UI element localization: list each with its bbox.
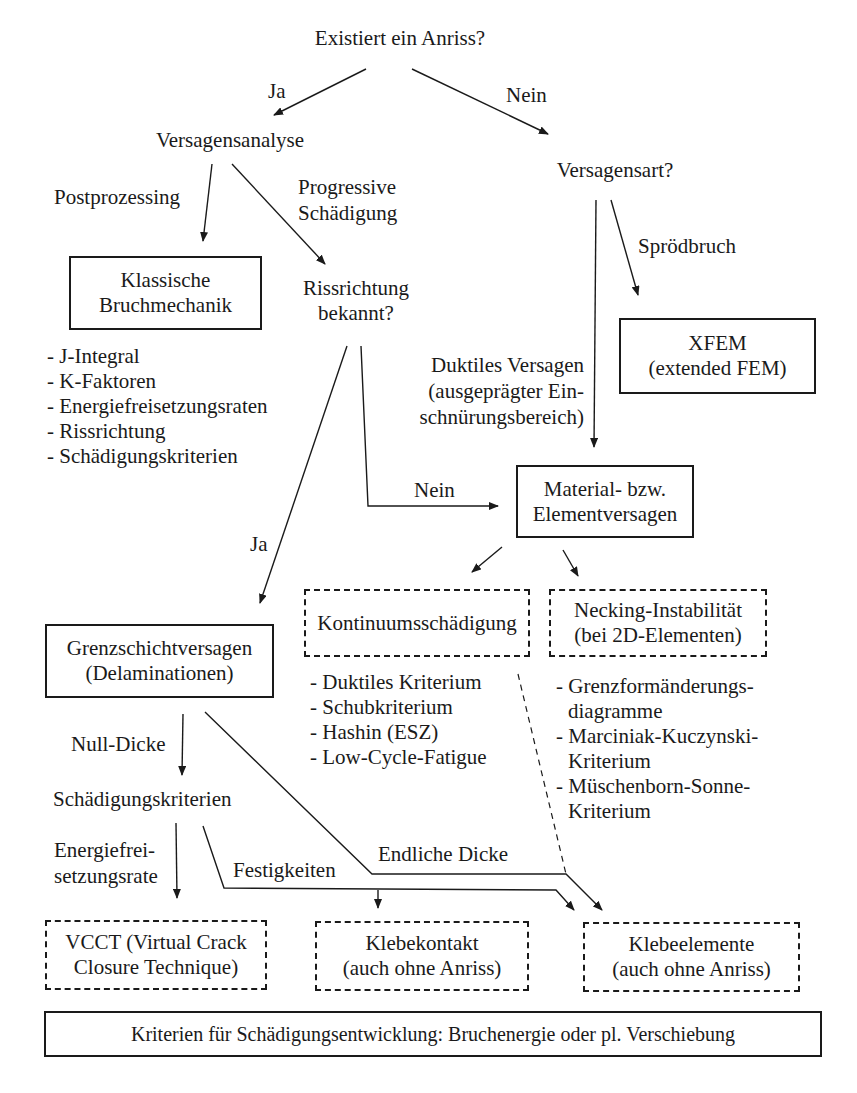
edge-label-postprozessing: Postprozessing — [54, 185, 180, 210]
list-item: - Hashin (ESZ) — [310, 720, 487, 745]
edge-label-duktil-1: Duktiles Versagen — [380, 353, 584, 378]
list-item: - J-Integral — [47, 344, 268, 369]
edge-label-nein-mid: Nein — [414, 478, 455, 503]
versagensart-node: Versagensart? — [540, 158, 690, 183]
klebeelemente-box: Klebeelemente (auch ohne Anriss) — [583, 922, 800, 992]
klassische-bruchmechanik-box: Klassische Bruchmechanik — [69, 256, 262, 330]
footer-criteria-box: Kriterien für Schädigungsentwicklung: Br… — [44, 1011, 822, 1057]
klebekontakt-box: Klebekontakt (auch ohne Anriss) — [315, 921, 529, 991]
list-item: - Duktiles Kriterium — [310, 670, 487, 695]
versagensanalyse-node: Versagensanalyse — [130, 128, 330, 153]
list-item: - Grenzformänderungs-diagramme — [556, 674, 758, 724]
edge-label-null-dicke: Null-Dicke — [71, 732, 165, 757]
list-item: - Marciniak-Kuczynski-Kriterium — [556, 724, 758, 774]
edge-label-festigkeiten: Festigkeiten — [233, 858, 336, 883]
edge-label-duktil-3: schnürungsbereich) — [380, 405, 584, 430]
grenzschichtversagen-box: Grenzschichtversagen (Delaminationen) — [45, 624, 274, 698]
edge-label-ja-top: Ja — [268, 79, 286, 104]
list-item: - Müschenborn-Sonne-Kriterium — [556, 774, 758, 824]
list-item: - Low-Cycle-Fatigue — [310, 745, 487, 770]
xfem-box: XFEM (extended FEM) — [619, 318, 816, 394]
necking-instabilitaet-box: Necking-Instabilität (bei 2D-Elementen) — [549, 589, 767, 657]
edge-label-ja-mid: Ja — [250, 532, 268, 557]
list-item: - K-Faktoren — [47, 369, 268, 394]
klassische-list: - J-Integral - K-Faktoren - Energiefreis… — [47, 344, 268, 469]
list-item: - Schubkriterium — [310, 695, 487, 720]
schaedigungskriterien-node: Schädigungskriterien — [53, 787, 231, 812]
list-item: - Energiefreisetzungsraten — [47, 394, 268, 419]
edge-label-sproedbruch: Sprödbruch — [638, 234, 736, 259]
necking-list: - Grenzformänderungs-diagramme - Marcini… — [556, 674, 758, 824]
edge-label-progressive-2: Schädigung — [298, 201, 397, 226]
edge-label-nein-top: Nein — [506, 83, 547, 108]
kontinuum-list: - Duktiles Kriterium - Schubkriterium - … — [310, 670, 487, 770]
vcct-box: VCCT (Virtual Crack Closure Technique) — [45, 920, 267, 990]
edge-label-progressive-1: Progressive — [298, 175, 396, 200]
edge-label-duktil-2: (ausgeprägter Ein- — [380, 379, 584, 404]
edge-label-energie-1: Energiefrei- — [54, 838, 155, 863]
edge-label-endliche-dicke: Endliche Dicke — [378, 842, 508, 867]
root-question: Existiert ein Anriss? — [260, 26, 540, 51]
material-elementversagen-box: Material- bzw. Elementversagen — [516, 465, 694, 538]
list-item: - Schädigungskriterien — [47, 444, 268, 469]
edge-label-energie-2: setzungsrate — [54, 864, 158, 889]
list-item: - Rissrichtung — [47, 419, 268, 444]
rissrichtung-bekannt-node: Rissrichtung bekannt? — [286, 276, 426, 326]
kontinuumsschaedigung-box: Kontinuumsschädigung — [304, 589, 530, 657]
